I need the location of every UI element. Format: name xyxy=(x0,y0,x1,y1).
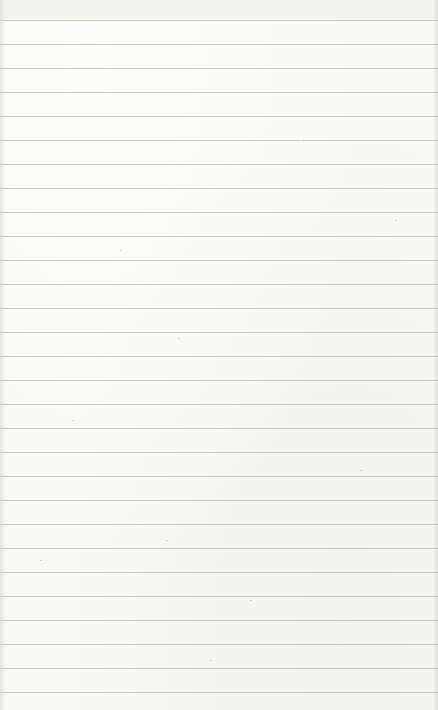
ruled-line xyxy=(0,164,438,165)
paper-speck xyxy=(40,560,42,561)
ruled-line xyxy=(0,476,438,477)
ruled-line xyxy=(0,308,438,309)
paper-speck xyxy=(166,540,168,541)
ruled-line xyxy=(0,668,438,669)
paper-speck xyxy=(395,220,397,221)
ruled-line xyxy=(0,188,438,189)
ruled-line xyxy=(0,572,438,573)
lined-paper xyxy=(0,0,438,710)
ruled-line xyxy=(0,524,438,525)
ruled-line xyxy=(0,140,438,141)
paper-speck xyxy=(300,140,302,141)
paper-speck xyxy=(210,660,212,661)
ruled-line xyxy=(0,284,438,285)
ruled-line xyxy=(0,452,438,453)
ruled-line xyxy=(0,356,438,357)
ruled-line xyxy=(0,692,438,693)
ruled-line xyxy=(0,20,438,21)
ruled-line xyxy=(0,44,438,45)
ruled-line xyxy=(0,332,438,333)
ruled-line xyxy=(0,212,438,213)
ruled-line xyxy=(0,500,438,501)
ruled-line xyxy=(0,68,438,69)
ruled-line xyxy=(0,92,438,93)
paper-speck xyxy=(250,600,252,601)
right-edge-shadow xyxy=(433,0,438,710)
paper-speck xyxy=(72,420,74,421)
left-edge-shadow xyxy=(0,0,6,710)
ruled-line xyxy=(0,428,438,429)
paper-speck xyxy=(120,250,122,251)
ruled-line xyxy=(0,404,438,405)
ruled-line xyxy=(0,644,438,645)
paper-speck xyxy=(178,338,180,339)
ruled-line xyxy=(0,548,438,549)
ruled-line xyxy=(0,116,438,117)
ruled-line xyxy=(0,596,438,597)
ruled-line xyxy=(0,620,438,621)
ruled-line xyxy=(0,260,438,261)
top-margin-band xyxy=(0,0,438,19)
ruled-line xyxy=(0,236,438,237)
paper-speck xyxy=(360,470,362,471)
ruled-line xyxy=(0,380,438,381)
